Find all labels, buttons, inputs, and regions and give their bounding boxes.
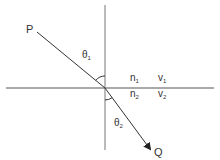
theta2-arc <box>105 98 112 100</box>
label-n2: n2 <box>130 88 140 100</box>
refraction-diagram: P Q θ1 θ2 n1 v1 n2 v2 <box>0 0 220 160</box>
label-v1: v1 <box>158 72 167 84</box>
label-v2: v2 <box>158 88 167 100</box>
label-theta2: θ2 <box>114 117 124 129</box>
label-theta1: θ1 <box>82 49 92 61</box>
label-q: Q <box>154 146 163 158</box>
label-p: P <box>26 23 33 35</box>
theta1-arc <box>96 76 105 80</box>
label-n1: n1 <box>130 72 140 84</box>
incident-ray <box>37 32 105 88</box>
refracted-ray <box>105 88 150 149</box>
